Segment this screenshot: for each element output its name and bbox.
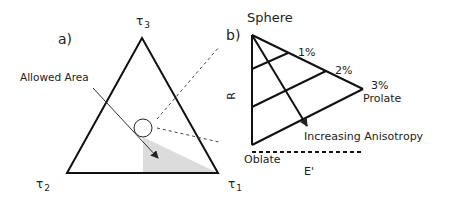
panel-b-label: b) xyxy=(226,27,240,43)
anisotropy-label: Increasing Anisotropy xyxy=(304,130,424,143)
allowed-area-label: Allowed Area xyxy=(20,71,89,83)
zoom-circle xyxy=(134,119,152,137)
iso-label-3: 3% xyxy=(371,79,388,92)
panel-a-label: a) xyxy=(58,31,72,47)
tau2-label: τ2 xyxy=(36,177,50,193)
ternary-triangle xyxy=(67,38,218,173)
sphere-label: Sphere xyxy=(247,10,293,25)
zoom-dash-lower xyxy=(157,128,219,142)
iso-label-2: 2% xyxy=(335,64,352,77)
tau3-label: τ3 xyxy=(136,14,150,30)
r-axis-label: R xyxy=(225,92,238,100)
allowed-area-arrow xyxy=(93,88,158,158)
diagram-canvas: a) τ3 τ2 τ1 Allowed Area b) Sphere R 1% … xyxy=(0,0,455,202)
oblate-label: Oblate xyxy=(244,153,281,166)
prolate-label: Prolate xyxy=(363,92,402,105)
iso-label-1: 1% xyxy=(298,46,315,59)
iso-line-2 xyxy=(252,71,326,107)
panel-a xyxy=(67,38,219,173)
tau1-label: τ1 xyxy=(228,177,242,193)
e-axis-label: E' xyxy=(304,165,314,178)
